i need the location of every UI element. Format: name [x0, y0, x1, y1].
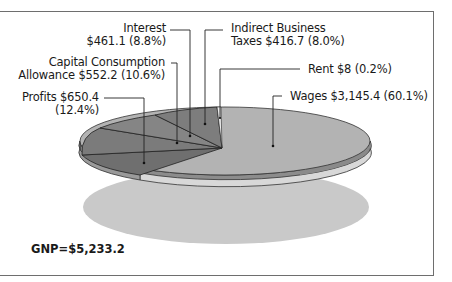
label-capital-consumption: Capital Consumption Allowance $552.2 (10…	[18, 56, 165, 82]
label-interest: Interest $461.1 (8.8%)	[87, 22, 166, 48]
label-rent: Rent $8 (0.2%)	[308, 63, 392, 76]
label-indirect-taxes-line2: Taxes $416.7 (8.0%)	[231, 35, 345, 48]
label-indirect-taxes: Indirect Business Taxes $416.7 (8.0%)	[231, 22, 345, 48]
label-wages: Wages $3,145.4 (60.1%)	[290, 90, 428, 103]
label-interest-line2: $461.1 (8.8%)	[87, 35, 166, 48]
gnp-total-label: GNP=$5,233.2	[31, 242, 125, 256]
label-profits-line2: (12.4%)	[22, 104, 99, 117]
label-capital-consumption-line2: Allowance $552.2 (10.6%)	[18, 69, 165, 82]
label-rent-line1: Rent $8 (0.2%)	[308, 63, 392, 76]
label-profits: Profits $650.4 (12.4%)	[22, 91, 99, 117]
label-wages-line1: Wages $3,145.4 (60.1%)	[290, 90, 428, 103]
pie-chart	[0, 0, 452, 282]
